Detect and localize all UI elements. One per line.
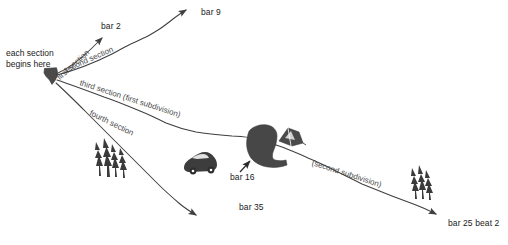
endpoint-label-bar-2: bar 2 bbox=[101, 21, 121, 31]
endpoint-label-bar-35: bar 35 bbox=[239, 202, 264, 212]
path-third-section bbox=[57, 80, 436, 214]
origin-label-line1: each section bbox=[6, 48, 54, 59]
beetle-car-icon bbox=[184, 152, 217, 174]
conifer-trees-right-icon bbox=[411, 165, 433, 200]
endpoint-label-bar-9: bar 9 bbox=[201, 7, 221, 17]
endpoint-label-bar-25-beat-2: bar 25 beat 2 bbox=[448, 218, 499, 228]
annotation-label-bar-16: bar 16 bbox=[230, 172, 255, 182]
path-fourth-section bbox=[56, 83, 196, 215]
diagram-canvas: each section begins here first section s… bbox=[0, 0, 508, 245]
origin-label: each section begins here bbox=[6, 48, 54, 70]
bar-16-pointer-arrow bbox=[240, 161, 250, 172]
conifer-trees-left-icon bbox=[95, 138, 127, 178]
origin-label-line2: begins here bbox=[6, 59, 54, 70]
tent-icon bbox=[279, 128, 306, 146]
